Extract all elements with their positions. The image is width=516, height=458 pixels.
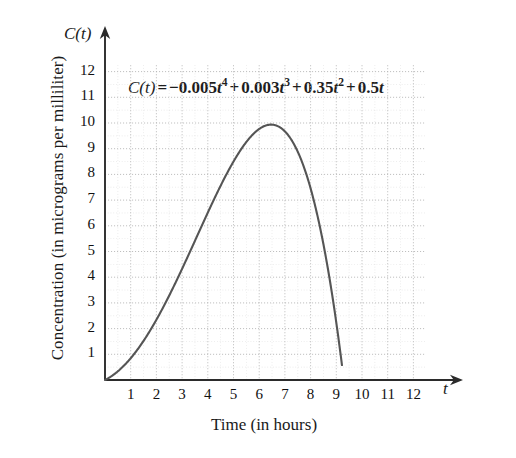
x-axis-tick-label: 2 bbox=[143, 386, 169, 403]
data-curve bbox=[105, 125, 342, 380]
y-axis-tick-label: 6 bbox=[67, 216, 95, 233]
y-axis-tick-label: 5 bbox=[67, 242, 95, 259]
x-axis-tick-label: 7 bbox=[272, 386, 298, 403]
y-axis-tick-label: 7 bbox=[67, 190, 95, 207]
y-axis-tick-label: 12 bbox=[67, 62, 95, 79]
y-axis-tick-label: 8 bbox=[67, 164, 95, 181]
major-gridlines bbox=[105, 65, 425, 380]
chart-figure: Concentration (in micrograms per millili… bbox=[0, 0, 516, 458]
axis-lines bbox=[100, 26, 463, 385]
y-axis-tick-label: 10 bbox=[67, 113, 95, 130]
x-axis-tick-label: 9 bbox=[323, 386, 349, 403]
x-axis-tick-label: 5 bbox=[221, 386, 247, 403]
x-axis-tick-label: 1 bbox=[118, 386, 144, 403]
y-axis-tick-label: 11 bbox=[67, 87, 95, 104]
x-axis-tick-label: 6 bbox=[246, 386, 272, 403]
y-axis-tick-label: 9 bbox=[67, 139, 95, 156]
x-axis-tick-label: 8 bbox=[298, 386, 324, 403]
y-axis-tick-label: 1 bbox=[67, 344, 95, 361]
x-axis-tick-label: 10 bbox=[349, 386, 375, 403]
y-axis-tick-label: 4 bbox=[67, 267, 95, 284]
x-axis-tick-label: 4 bbox=[195, 386, 221, 403]
x-axis-tick-label: 3 bbox=[169, 386, 195, 403]
y-axis-tick-label: 3 bbox=[67, 293, 95, 310]
minor-gridlines bbox=[105, 65, 425, 380]
x-axis-tick-label: 12 bbox=[400, 386, 426, 403]
x-axis-tick-label: 11 bbox=[375, 386, 401, 403]
y-axis-tick-label: 2 bbox=[67, 319, 95, 336]
